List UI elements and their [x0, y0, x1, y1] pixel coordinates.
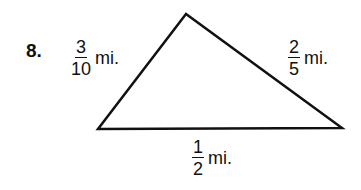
- side-label-bottom: 1 2 mi.: [192, 138, 232, 178]
- unit: mi.: [304, 48, 328, 69]
- problem-number: 8.: [26, 40, 42, 62]
- numerator: 2: [288, 38, 300, 58]
- numerator: 1: [192, 138, 204, 158]
- unit: mi.: [208, 148, 232, 169]
- numerator: 3: [75, 38, 87, 58]
- side-label-left: 3 10 mi.: [71, 38, 119, 78]
- triangle-figure: [0, 0, 361, 190]
- side-label-right: 2 5 mi.: [288, 38, 328, 78]
- unit: mi.: [95, 48, 119, 69]
- denominator: 5: [289, 58, 299, 78]
- denominator: 10: [71, 58, 91, 78]
- denominator: 2: [193, 158, 203, 178]
